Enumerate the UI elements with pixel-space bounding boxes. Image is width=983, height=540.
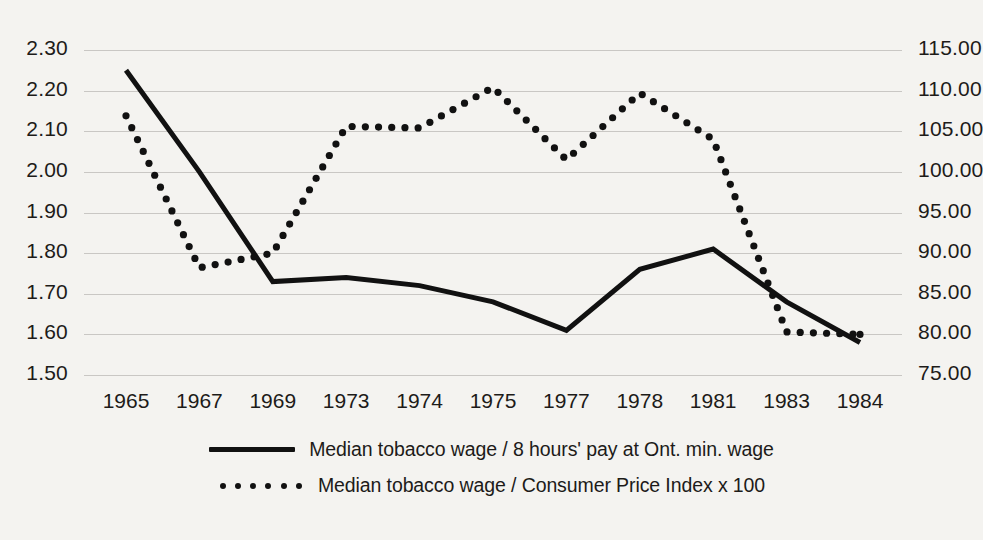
series-dot [810,329,817,336]
series-dot [163,195,170,202]
x-axis-tick-label: 1977 [543,389,590,413]
series-dot [760,267,767,274]
series-dot [580,141,587,148]
gridline [84,375,902,376]
series-dot [532,126,539,133]
series-dot [415,124,422,131]
series-dot [134,136,141,143]
series-dot [856,331,863,338]
series-dot [145,160,152,167]
series-dot [286,220,293,227]
chart-legend: Median tobacco wage / 8 hours' pay at On… [0,438,983,497]
left-axis-tick-label: 2.00 [0,158,68,182]
series-dot [619,105,626,112]
series-dot [401,124,408,131]
legend-label-solid: Median tobacco wage / 8 hours' pay at On… [309,438,774,461]
series-dot [746,230,753,237]
series-dot [727,181,734,188]
series-solid-line [126,70,860,342]
series-dot [774,304,781,311]
series-dot [769,292,776,299]
series-dot [263,251,270,258]
right-axis-tick-label: 95.00 [918,199,972,223]
series-dot [362,123,369,130]
series-dot [736,205,743,212]
series-dot [151,172,158,179]
legend-item-solid: Median tobacco wage / 8 hours' pay at On… [209,438,774,461]
series-dot [449,106,456,113]
right-axis-tick-label: 105.00 [918,117,983,141]
series-dot [849,331,856,338]
x-axis-tick-label: 1978 [616,389,663,413]
series-dot [168,207,175,214]
series-dot [599,123,606,130]
series-dot [438,112,445,119]
series-dot [191,255,198,262]
series-dot [326,152,333,159]
series-dot [836,330,843,337]
series-dot [250,253,257,260]
series-dot [212,261,219,268]
x-axis-tick-label: 1984 [837,389,884,413]
series-dot [731,193,738,200]
right-axis-tick-label: 90.00 [918,239,972,263]
left-axis-tick-label: 1.50 [0,361,68,385]
left-axis-tick-label: 1.80 [0,239,68,263]
series-dot [755,255,762,262]
x-axis-tick-label: 1967 [176,389,223,413]
x-axis-tick-label: 1975 [470,389,517,413]
x-axis-tick-label: 1965 [103,389,150,413]
right-axis-tick-label: 100.00 [918,158,983,182]
right-axis-tick-label: 115.00 [918,36,982,60]
series-dot [375,123,382,130]
left-axis-tick-label: 1.60 [0,320,68,344]
series-dot [713,144,720,151]
legend-label-dotted: Median tobacco wage / Consumer Price Ind… [318,474,765,497]
series-dot [683,119,690,126]
legend-item-dotted: Median tobacco wage / Consumer Price Ind… [218,474,765,497]
series-dot [494,89,501,96]
series-dot [672,112,679,119]
series-dot [313,175,320,182]
series-dot [224,258,231,265]
series-dot [339,129,346,136]
right-axis-tick-label: 85.00 [918,280,972,304]
right-axis-tick-label: 80.00 [918,320,972,344]
series-dot [797,329,804,336]
series-dot [650,98,657,105]
series-dot [570,150,577,157]
series-dot [504,98,511,105]
series-dot [783,328,790,335]
series-dot [778,316,785,323]
series-dot [332,140,339,147]
left-axis-tick-label: 1.70 [0,280,68,304]
series-dot [706,133,713,140]
series-dot [157,184,164,191]
series-dot [237,256,244,263]
series-dot [388,124,395,131]
series-dot [717,156,724,163]
series-dot [180,231,187,238]
series-dot [484,87,491,94]
series-dot [694,126,701,133]
series-dot [293,209,300,216]
x-axis-tick-label: 1983 [763,389,810,413]
series-dot [461,100,468,107]
x-axis-tick-label: 1973 [323,389,370,413]
x-axis-tick-label: 1974 [396,389,443,413]
series-dot [551,144,558,151]
series-dot [186,243,193,250]
series-dot [560,154,567,161]
series-dot [319,163,326,170]
series-dot [122,112,129,119]
series-dot [629,96,636,103]
series-layer [84,50,902,375]
series-dot [722,168,729,175]
left-axis-tick-label: 2.30 [0,36,68,60]
series-dot [273,243,280,250]
series-dot [128,124,135,131]
series-dot [513,107,520,114]
dotted-line-key-icon [218,480,304,492]
series-dot [472,93,479,100]
series-dot [750,242,757,249]
